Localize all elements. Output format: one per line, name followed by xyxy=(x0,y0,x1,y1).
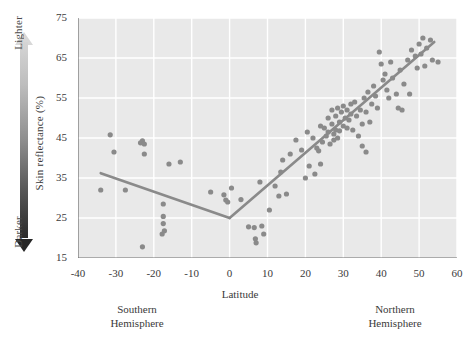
data-point xyxy=(108,132,113,137)
x-tick-label: -30 xyxy=(100,267,132,279)
data-point xyxy=(161,201,166,206)
data-point xyxy=(405,57,410,62)
data-point xyxy=(390,75,395,80)
data-point xyxy=(257,179,262,184)
data-point xyxy=(386,95,391,100)
data-point xyxy=(388,59,393,64)
data-point xyxy=(284,191,289,196)
data-point xyxy=(341,103,346,108)
northern-hemisphere-line2: Hemisphere xyxy=(340,316,450,330)
data-point xyxy=(420,35,425,40)
data-point xyxy=(280,157,285,162)
x-tick-label: 0 xyxy=(214,267,246,279)
plot-area xyxy=(78,18,457,258)
data-point xyxy=(409,47,414,52)
data-point xyxy=(310,135,315,140)
data-point xyxy=(435,59,440,64)
regression-northern-segment xyxy=(230,42,435,218)
data-point xyxy=(276,193,281,198)
data-point xyxy=(326,129,331,134)
data-point xyxy=(371,83,376,88)
skin-reflectance-latitude-figure: Lighter Darker Skin reflectance (%) 1525… xyxy=(0,0,474,341)
data-point xyxy=(221,192,226,197)
data-point xyxy=(278,169,283,174)
data-point xyxy=(377,49,382,54)
x-tick-label: 60 xyxy=(441,267,473,279)
y-tick-label: 75 xyxy=(45,11,67,23)
data-point xyxy=(267,207,272,212)
data-point xyxy=(335,135,340,140)
y-tick-label: 25 xyxy=(45,211,67,223)
data-point xyxy=(326,115,331,120)
northern-hemisphere-line1: Northern xyxy=(340,302,450,316)
data-point xyxy=(407,91,412,96)
x-tick-label: -20 xyxy=(138,267,170,279)
data-point xyxy=(367,119,372,124)
data-point xyxy=(123,187,128,192)
data-point xyxy=(417,41,422,46)
data-point xyxy=(418,51,423,56)
scatter-plot-canvas xyxy=(78,18,457,258)
data-point xyxy=(363,149,368,154)
y-tick-label: 35 xyxy=(45,171,67,183)
x-axis-title: Latitude xyxy=(200,288,280,300)
y-axis-title: Skin reflectance (%) xyxy=(33,96,45,190)
x-tick-label: 50 xyxy=(403,267,435,279)
data-point xyxy=(299,147,304,152)
data-point xyxy=(352,99,357,104)
data-point xyxy=(369,101,374,106)
data-point xyxy=(252,225,257,230)
data-point xyxy=(358,107,363,112)
gradient-top-label: Lighter xyxy=(12,16,24,50)
data-point xyxy=(305,129,310,134)
data-point xyxy=(335,105,340,110)
data-point xyxy=(394,91,399,96)
southern-hemisphere-line2: Hemisphere xyxy=(82,316,192,330)
data-point xyxy=(360,143,365,148)
data-point xyxy=(161,214,166,219)
data-point xyxy=(254,240,259,245)
data-point xyxy=(337,128,342,133)
data-point xyxy=(316,148,321,153)
x-tick-label: 40 xyxy=(365,267,397,279)
data-point xyxy=(208,189,213,194)
y-tick-label: 65 xyxy=(45,51,67,63)
data-point xyxy=(246,224,251,229)
data-point xyxy=(363,109,368,114)
data-point xyxy=(424,45,429,50)
x-tick-label: 30 xyxy=(327,267,359,279)
data-point xyxy=(375,105,380,110)
data-point xyxy=(354,113,359,118)
data-point xyxy=(327,141,332,146)
data-point xyxy=(238,197,243,202)
data-point xyxy=(344,107,349,112)
data-point xyxy=(178,159,183,164)
data-point xyxy=(422,63,427,68)
data-point xyxy=(307,163,312,168)
southern-hemisphere-line1: Southern xyxy=(82,302,192,316)
data-point xyxy=(337,119,342,124)
data-point xyxy=(346,117,351,122)
data-point xyxy=(398,67,403,72)
data-point xyxy=(333,113,338,118)
data-point xyxy=(415,65,420,70)
data-point xyxy=(320,139,325,144)
northern-hemisphere-label: Northern Hemisphere xyxy=(340,302,450,330)
data-point xyxy=(365,89,370,94)
data-point xyxy=(373,93,378,98)
data-point xyxy=(344,125,349,130)
data-point xyxy=(142,141,147,146)
data-point xyxy=(401,81,406,86)
data-point xyxy=(272,183,277,188)
data-point xyxy=(428,37,433,42)
data-point xyxy=(348,111,353,116)
data-point xyxy=(430,57,435,62)
data-point xyxy=(259,223,264,228)
y-tick-label: 45 xyxy=(45,131,67,143)
data-point xyxy=(140,244,145,249)
data-point xyxy=(166,161,171,166)
data-point xyxy=(303,175,308,180)
data-point xyxy=(261,231,266,236)
data-point xyxy=(225,199,230,204)
y-tick-label: 55 xyxy=(45,91,67,103)
